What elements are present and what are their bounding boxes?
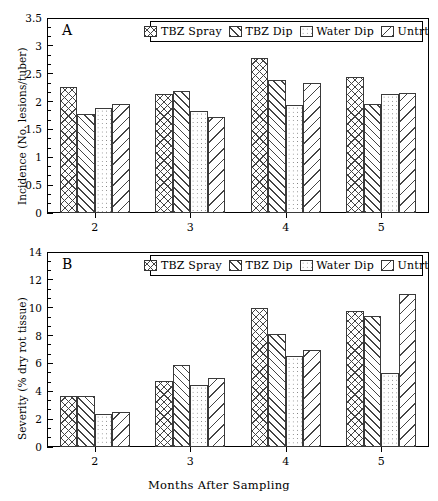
y-minor-tick-b (47, 400, 51, 401)
y-tick-label-b-3: 6 (7, 357, 42, 369)
legend-entry-tbz-dip: TBZ Dip (229, 259, 293, 272)
y-tick-a (47, 129, 53, 130)
y-minor-tick-a (47, 175, 51, 176)
legend-entry-tbz-dip: TBZ Dip (229, 25, 293, 38)
bar-b-4-water-dip (286, 356, 303, 447)
bar-a-2-tbz-dip (77, 114, 94, 213)
panel-b-letter: B (62, 256, 72, 272)
bar-a-3-tbz-spray (155, 94, 172, 213)
bar-a-4-untrt (303, 83, 320, 213)
y-minor-tick-a (47, 110, 51, 111)
y-minor-tick-a (47, 203, 51, 204)
legend-label: TBZ Spray (161, 25, 222, 38)
bar-a-4-tbz-dip (268, 80, 285, 213)
legend-swatch-dots-icon (300, 260, 313, 271)
y-minor-tick-b (47, 317, 51, 318)
y-minor-tick-a (47, 27, 51, 28)
x-tick-label-a-2: 2 (91, 221, 98, 234)
y-tick-label-b-0: 0 (7, 441, 42, 453)
legend-label: TBZ Spray (161, 259, 222, 272)
panel-a-incidence: A Incidence (No. lesions/tuber) 00.511.5… (0, 0, 438, 240)
x-tick-a (381, 213, 382, 218)
legend-label: Untrt (398, 25, 429, 38)
y-minor-tick-a (47, 92, 51, 93)
bar-b-2-untrt (112, 412, 129, 447)
bar-a-4-water-dip (286, 105, 303, 213)
y-tick-label-b-6: 12 (7, 274, 42, 286)
y-tick-label-b-4: 8 (7, 330, 42, 342)
bar-a-5-untrt (399, 93, 416, 213)
y-minor-tick-a (47, 194, 51, 195)
legend-swatch-crosshatch-icon (144, 260, 157, 271)
bar-a-5-water-dip (381, 94, 398, 213)
bar-a-2-water-dip (95, 108, 112, 213)
y-tick-label-b-1: 2 (7, 413, 42, 425)
y-tick-label-b-2: 4 (7, 385, 42, 397)
bar-b-5-untrt (399, 294, 416, 447)
x-tick-a (190, 213, 191, 218)
bar-b-4-untrt (303, 350, 320, 448)
legend-entry-tbz-spray: TBZ Spray (144, 259, 221, 272)
y-tick-b (47, 391, 53, 392)
legend-a: TBZ SprayTBZ DipWater DipUntrt (150, 21, 423, 42)
y-minor-tick-a (47, 36, 51, 37)
x-tick-label-b-5: 5 (378, 455, 385, 468)
y-tick-label-a-1: 0.5 (7, 179, 42, 191)
bar-a-5-tbz-dip (364, 104, 381, 213)
y-minor-tick-b (47, 382, 51, 383)
y-tick-a (47, 45, 53, 46)
bar-b-3-tbz-dip (173, 365, 190, 447)
legend-label: Water Dip (316, 259, 374, 272)
y-tick-a (47, 101, 53, 102)
x-axis-label: Months After Sampling (0, 478, 438, 492)
y-tick-b (47, 363, 53, 364)
bar-a-3-untrt (208, 117, 225, 213)
y-tick-b (47, 307, 53, 308)
y-minor-tick-b (47, 428, 51, 429)
y-tick-a (47, 73, 53, 74)
y-minor-tick-b (47, 298, 51, 299)
y-minor-tick-a (47, 64, 51, 65)
y-minor-tick-a (47, 148, 51, 149)
figure: A Incidence (No. lesions/tuber) 00.511.5… (0, 0, 438, 501)
bar-a-4-tbz-spray (251, 58, 268, 213)
y-tick-b (47, 447, 53, 448)
bar-a-3-tbz-dip (173, 91, 190, 213)
y-minor-tick-b (47, 409, 51, 410)
legend-label: Untrt (398, 259, 429, 272)
panel-b-severity: B Severity (% dry rot tissue) 0246810121… (0, 240, 438, 501)
legend-swatch-diagonal-down-icon (381, 26, 394, 37)
y-tick-label-b-7: 14 (7, 246, 42, 258)
y-tick-label-a-0: 0 (7, 207, 42, 219)
x-tick-a (95, 213, 96, 218)
y-tick-b (47, 279, 53, 280)
y-minor-tick-b (47, 289, 51, 290)
bar-a-2-tbz-spray (60, 87, 77, 213)
bar-b-5-water-dip (381, 373, 398, 447)
y-tick-label-a-4: 2 (7, 96, 42, 108)
legend-entry-tbz-spray: TBZ Spray (144, 25, 221, 38)
legend-swatch-crosshatch-icon (144, 26, 157, 37)
y-tick-a (47, 185, 53, 186)
x-tick-label-b-4: 4 (282, 455, 289, 468)
y-tick-b (47, 335, 53, 336)
y-minor-tick-a (47, 138, 51, 139)
y-minor-tick-a (47, 83, 51, 84)
legend-swatch-diagonal-up-icon (229, 26, 242, 37)
legend-swatch-dots-icon (300, 26, 313, 37)
y-minor-tick-b (47, 354, 51, 355)
legend-swatch-diagonal-down-icon (381, 260, 394, 271)
bar-a-2-untrt (112, 104, 129, 213)
bar-a-5-tbz-spray (346, 77, 363, 214)
y-minor-tick-a (47, 166, 51, 167)
y-tick-a (47, 213, 53, 214)
x-tick-label-a-3: 3 (187, 221, 194, 234)
y-minor-tick-b (47, 372, 51, 373)
y-minor-tick-b (47, 344, 51, 345)
y-minor-tick-b (47, 261, 51, 262)
legend-entry-water-dip: Water Dip (300, 259, 374, 272)
x-tick-b (95, 447, 96, 452)
y-tick-label-a-5: 2.5 (7, 68, 42, 80)
y-tick-b (47, 252, 53, 253)
x-tick-label-a-5: 5 (378, 221, 385, 234)
